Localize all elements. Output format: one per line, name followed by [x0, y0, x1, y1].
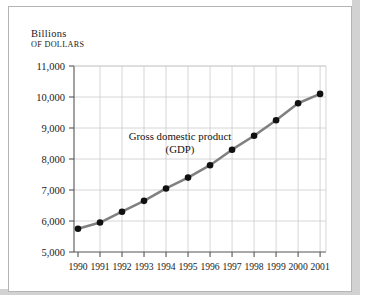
- svg-text:5,000: 5,000: [41, 247, 65, 258]
- svg-text:1995: 1995: [178, 261, 197, 272]
- x-axis-ticks: [78, 252, 320, 257]
- page-background: Billions of dollars 5,0006,0007,0008,000…: [0, 0, 368, 301]
- svg-text:1998: 1998: [244, 261, 263, 272]
- y-axis-ticks: [69, 66, 74, 252]
- horizontal-gridlines: [74, 66, 326, 221]
- svg-text:8,000: 8,000: [41, 154, 65, 165]
- svg-text:1996: 1996: [200, 261, 219, 272]
- svg-text:1999: 1999: [266, 261, 285, 272]
- svg-text:9,000: 9,000: [41, 123, 65, 134]
- svg-text:7,000: 7,000: [41, 185, 65, 196]
- svg-text:1997: 1997: [222, 261, 241, 272]
- svg-text:10,000: 10,000: [36, 92, 65, 103]
- svg-text:1992: 1992: [112, 261, 131, 272]
- svg-text:Gross domestic product: Gross domestic product: [129, 130, 232, 142]
- svg-text:1990: 1990: [68, 261, 87, 272]
- x-axis-tick-labels: 1990199119921993199419951996199719981999…: [68, 261, 329, 272]
- y-axis-tick-labels: 5,0006,0007,0008,0009,00010,00011,000: [36, 61, 65, 258]
- svg-text:(GDP): (GDP): [166, 143, 195, 156]
- chart-plot-area: 5,0006,0007,0008,0009,00010,00011,000 19…: [0, 0, 368, 301]
- svg-text:6,000: 6,000: [41, 216, 65, 227]
- line-chart-svg: 5,0006,0007,0008,0009,00010,00011,000 19…: [0, 0, 368, 301]
- svg-text:2000: 2000: [288, 261, 307, 272]
- gdp-line-series: [78, 94, 320, 229]
- svg-text:2001: 2001: [311, 261, 330, 272]
- svg-text:11,000: 11,000: [37, 61, 66, 72]
- svg-text:1994: 1994: [156, 261, 175, 272]
- svg-text:1991: 1991: [90, 261, 109, 272]
- svg-text:1993: 1993: [134, 261, 153, 272]
